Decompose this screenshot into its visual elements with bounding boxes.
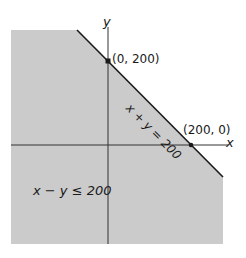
point-label-200-0: (200, 0) bbox=[183, 124, 231, 136]
y-axis-label: y bbox=[103, 15, 111, 28]
point-label-0-200: (0, 200) bbox=[112, 53, 160, 65]
point-0-200 bbox=[106, 59, 111, 64]
x-axis-label: x bbox=[226, 136, 234, 149]
region-label: x − y ≤ 200 bbox=[33, 184, 112, 197]
point-200-0 bbox=[189, 143, 194, 148]
